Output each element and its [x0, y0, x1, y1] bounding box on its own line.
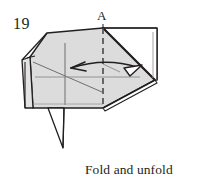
- caption-line-1: Fold and unfold: [85, 162, 189, 175]
- step-number: 19: [13, 15, 30, 33]
- origami-diagram-page: 19 A Fold and unfold using A as a guide.: [0, 0, 219, 175]
- bottom-spike: [48, 108, 64, 148]
- bottom-spike-group: [48, 108, 64, 148]
- caption: Fold and unfold using A as a guide.: [85, 132, 189, 175]
- point-label-a: A: [97, 9, 106, 24]
